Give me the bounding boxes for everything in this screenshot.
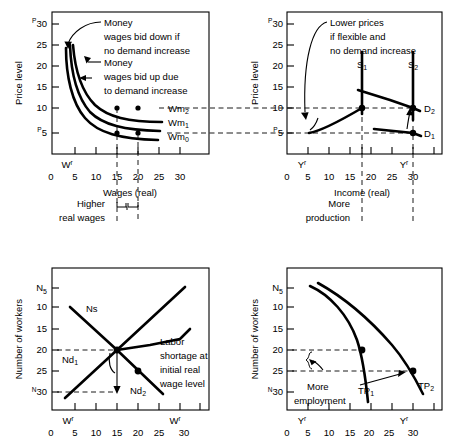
- panel-bottom-right-y-axis-title: Number of workers: [249, 299, 260, 379]
- svg-text:5: 5: [72, 171, 77, 182]
- label-ns: Ns: [86, 303, 98, 314]
- svg-text:10: 10: [36, 301, 47, 312]
- annotation-money-wages-bid-up: Money wages bid up due to demand increas…: [103, 57, 187, 96]
- svg-text:20: 20: [36, 344, 47, 355]
- svg-text:15: 15: [36, 81, 47, 92]
- panel-top-right-yr-marker-right: Yr: [400, 159, 409, 170]
- svg-text:25: 25: [154, 171, 165, 182]
- svg-text:5: 5: [305, 171, 310, 182]
- svg-text:production: production: [306, 212, 350, 223]
- svg-text:N30: N30: [268, 386, 283, 397]
- svg-text:employment: employment: [294, 395, 346, 406]
- label-d1: D1: [424, 128, 435, 140]
- panel-top-right-y-ticks: [287, 24, 294, 133]
- panel-bottom-left-y-axis-title: Number of workers: [13, 299, 24, 379]
- between-panel-notes: Higher real wages More production: [59, 108, 350, 223]
- svg-text:0: 0: [284, 427, 289, 438]
- panel-top-left-y-ticks: [52, 24, 59, 133]
- panel-bottom-left-x-tick-labels: 0 5 10 15 20 25 30: [48, 427, 189, 438]
- tr-point-18-10: [359, 105, 365, 111]
- figure-svg: P30 25 20 15 10 P5 Price level 0 5 10 15…: [0, 0, 455, 444]
- annotation-more-employment: More employment: [294, 381, 346, 406]
- svg-text:15: 15: [36, 323, 47, 334]
- panel-bottom-left-x-ticks: [75, 403, 200, 410]
- label-s2: S2: [408, 59, 418, 71]
- svg-text:Money: Money: [104, 17, 133, 28]
- svg-text:wages bid up due: wages bid up due: [103, 71, 178, 82]
- svg-text:P30: P30: [32, 17, 47, 29]
- svg-text:Labor: Labor: [160, 336, 184, 347]
- svg-text:initial real: initial real: [160, 364, 200, 375]
- leader-arrowhead-lower-prices: [301, 112, 309, 120]
- tr-point-30-5: [410, 130, 416, 136]
- svg-text:15: 15: [112, 427, 123, 438]
- svg-text:30: 30: [175, 171, 186, 182]
- curve-tp2: [318, 283, 423, 394]
- svg-text:to demand increase: to demand increase: [104, 85, 187, 96]
- label-nd1: Nd1: [62, 354, 78, 366]
- leader-arrowhead-more-employment: [309, 359, 316, 365]
- svg-text:15: 15: [272, 81, 283, 92]
- panel-bottom-right: N5 10 15 20 25 N30 Number of workers 0 5…: [249, 268, 442, 438]
- panel-top-right-x-tick-labels: 0 5 10 15 20 25 30: [284, 171, 418, 182]
- svg-text:20: 20: [366, 171, 377, 182]
- svg-text:P30: P30: [268, 17, 283, 29]
- svg-text:25: 25: [154, 427, 165, 438]
- svg-text:20: 20: [272, 60, 283, 71]
- svg-text:0: 0: [284, 171, 289, 182]
- svg-text:More: More: [328, 198, 350, 209]
- panel-top-right-yr-marker-left: Yr: [298, 159, 307, 170]
- bl-down-arrowhead: [113, 386, 120, 394]
- svg-text:wages bid down if: wages bid down if: [103, 31, 180, 42]
- bl-point-20-n25: [135, 368, 142, 375]
- panel-bottom-right-y-ticks: [287, 288, 294, 392]
- svg-text:10: 10: [91, 171, 102, 182]
- svg-text:25: 25: [387, 171, 398, 182]
- leader-tick-lower-prices: [310, 118, 318, 130]
- br-point-30-n25: [410, 368, 417, 375]
- panel-bottom-right-yr-marker-left: Yr: [298, 415, 307, 426]
- br-point-18-n20: [359, 347, 366, 354]
- svg-text:N30: N30: [32, 386, 47, 397]
- svg-text:25: 25: [272, 39, 283, 50]
- svg-text:Higher: Higher: [77, 198, 105, 209]
- panel-bottom-left-wr-marker-left: Wr: [62, 415, 74, 426]
- svg-text:wage level: wage level: [159, 378, 205, 389]
- svg-text:if flexible and: if flexible and: [330, 31, 385, 42]
- svg-text:10: 10: [324, 171, 335, 182]
- svg-text:15: 15: [272, 323, 283, 334]
- label-s1: S1: [357, 59, 367, 71]
- svg-text:20: 20: [133, 427, 144, 438]
- annotation-labor-shortage: Labor shortage at initial real wage leve…: [159, 336, 208, 389]
- annotation-money-wages-bid-down: Money wages bid down if no demand increa…: [103, 17, 190, 56]
- panel-top-left-x-axis-title: Wages (real): [103, 187, 157, 198]
- panel-top-right-y-tick-labels: P30 25 20 15 10 P5: [268, 17, 283, 138]
- svg-text:More: More: [307, 381, 329, 392]
- tl-point-15-5: [114, 130, 119, 135]
- label-wm2: Wm2: [168, 103, 189, 115]
- svg-text:no demand increase: no demand increase: [104, 45, 190, 56]
- svg-text:15: 15: [345, 171, 356, 182]
- svg-text:5: 5: [305, 427, 310, 438]
- svg-text:10: 10: [324, 427, 335, 438]
- brace-higher-real-wages: [117, 202, 138, 210]
- label-nd2: Nd2: [130, 385, 146, 397]
- svg-text:20: 20: [272, 344, 283, 355]
- svg-text:30: 30: [408, 427, 419, 438]
- svg-text:10: 10: [272, 102, 283, 113]
- svg-text:25: 25: [272, 365, 283, 376]
- svg-text:no demand increase: no demand increase: [330, 45, 416, 56]
- panel-top-right: P30 25 20 15 10 P5 Price level 0 5 10 15…: [228, 12, 442, 222]
- panel-top-left: P30 25 20 15 10 P5 Price level 0 5 10 15…: [13, 12, 228, 198]
- svg-text:Lower prices: Lower prices: [330, 17, 384, 28]
- panel-top-left-y-tick-labels: P30 25 20 15 10 P5: [32, 17, 47, 138]
- leader-lower-prices: [305, 22, 327, 112]
- svg-text:25: 25: [384, 427, 395, 438]
- svg-text:N5: N5: [272, 282, 283, 295]
- svg-text:30: 30: [179, 427, 190, 438]
- panel-bottom-right-yr-marker-right: Yr: [400, 415, 409, 426]
- svg-text:10: 10: [272, 301, 283, 312]
- label-tp1: TP1: [358, 385, 374, 397]
- svg-text:shortage at: shortage at: [160, 350, 208, 361]
- panel-top-left-x-ticks: [75, 147, 180, 154]
